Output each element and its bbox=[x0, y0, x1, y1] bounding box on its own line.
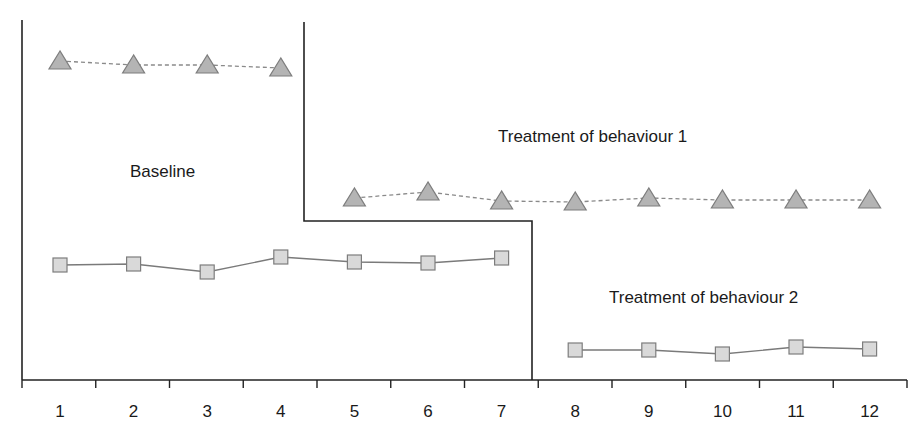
x-tick-label: 4 bbox=[276, 402, 285, 421]
square-marker bbox=[274, 250, 288, 264]
x-tick-label: 9 bbox=[644, 402, 653, 421]
square-marker bbox=[347, 255, 361, 269]
triangle-marker bbox=[564, 192, 586, 210]
x-tick-label: 2 bbox=[129, 402, 138, 421]
triangle-marker bbox=[711, 190, 733, 208]
square-marker bbox=[495, 251, 509, 265]
square-marker bbox=[421, 256, 435, 270]
triangle-marker bbox=[859, 190, 881, 208]
behaviour-1-line bbox=[60, 61, 281, 68]
x-tick-label: 5 bbox=[350, 402, 359, 421]
square-marker bbox=[715, 347, 729, 361]
square-marker bbox=[789, 340, 803, 354]
square-marker bbox=[200, 265, 214, 279]
triangle-marker bbox=[270, 58, 292, 76]
baseline-label: Baseline bbox=[130, 162, 195, 181]
triangle-marker bbox=[417, 182, 439, 200]
square-marker bbox=[568, 343, 582, 357]
x-axis-tick-labels: 123456789101112 bbox=[55, 402, 879, 421]
x-tick-label: 12 bbox=[860, 402, 879, 421]
triangle-marker bbox=[785, 190, 807, 208]
triangle-marker bbox=[638, 188, 660, 206]
x-tick-label: 1 bbox=[55, 402, 64, 421]
treatment-behaviour-2-label: Treatment of behaviour 2 bbox=[609, 288, 798, 307]
triangle-marker bbox=[196, 55, 218, 73]
triangle-marker bbox=[49, 51, 71, 69]
x-tick-label: 6 bbox=[423, 402, 432, 421]
multiple-baseline-chart: 123456789101112 Baseline Treatment of be… bbox=[0, 0, 924, 441]
x-tick-label: 8 bbox=[570, 402, 579, 421]
x-tick-label: 7 bbox=[497, 402, 506, 421]
x-axis-ticks bbox=[22, 380, 907, 388]
series-lines bbox=[60, 61, 870, 354]
x-tick-label: 3 bbox=[202, 402, 211, 421]
x-tick-label: 10 bbox=[713, 402, 732, 421]
square-marker bbox=[863, 342, 877, 356]
x-tick-label: 11 bbox=[787, 402, 805, 421]
series-markers bbox=[49, 51, 881, 361]
square-marker bbox=[127, 257, 141, 271]
square-marker bbox=[642, 343, 656, 357]
treatment-behaviour-1-label: Treatment of behaviour 1 bbox=[498, 127, 687, 146]
square-marker bbox=[53, 258, 67, 272]
